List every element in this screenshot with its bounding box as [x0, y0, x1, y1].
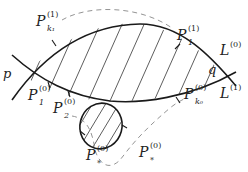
label-L1: L (1)	[219, 83, 241, 101]
svg-text:P: P	[35, 13, 46, 29]
svg-text:(0): (0)	[39, 84, 50, 93]
label-P-2-0: P (0) 2	[52, 97, 75, 120]
svg-text:1: 1	[39, 98, 44, 107]
label-p: p	[3, 66, 12, 81]
svg-text:(1): (1)	[188, 24, 199, 33]
label-P-1-0: P (0) 1	[27, 84, 50, 107]
svg-text:(0): (0)	[97, 144, 108, 153]
label-L0: L (0)	[219, 40, 241, 58]
svg-text:P: P	[183, 86, 194, 102]
svg-text:P: P	[85, 147, 96, 163]
svg-text:2: 2	[63, 111, 69, 120]
svg-text:(0): (0)	[64, 97, 75, 106]
lagrangian-diagram: p q P (1) k₁ P (1) 1 L (0) L (1) P (0) 1…	[0, 0, 248, 172]
label-P-star-right: P (0) *	[138, 141, 161, 165]
svg-text:P: P	[27, 87, 38, 103]
svg-text:*: *	[150, 156, 154, 165]
svg-text:P: P	[176, 27, 187, 43]
svg-text:P: P	[138, 144, 149, 160]
svg-text:(0): (0)	[150, 141, 161, 150]
svg-text:k₀: k₀	[195, 97, 204, 106]
label-P-k0-0: P (0) k₀	[183, 83, 206, 106]
svg-text:(1): (1)	[230, 83, 241, 92]
svg-text:P: P	[52, 100, 63, 116]
svg-text:L: L	[219, 42, 229, 58]
svg-text:k₁: k₁	[47, 24, 55, 33]
label-P-star-left: P (0) *	[85, 144, 108, 168]
label-q: q	[208, 62, 216, 77]
label-P-k1-1: P (1) k₁	[35, 10, 58, 33]
svg-text:1: 1	[188, 38, 193, 47]
svg-text:*: *	[97, 159, 101, 168]
svg-text:L: L	[219, 85, 229, 101]
svg-text:(0): (0)	[195, 83, 206, 92]
svg-text:(0): (0)	[230, 40, 241, 49]
svg-text:(1): (1)	[47, 10, 58, 19]
